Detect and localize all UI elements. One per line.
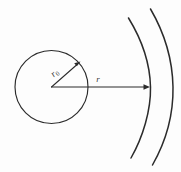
inner-radius-label-group: r0 <box>49 67 61 80</box>
outer-radius-arrow <box>52 84 151 89</box>
svg-text:r0: r0 <box>49 67 61 80</box>
outer-radius-label: r <box>96 74 100 84</box>
outer-arc <box>151 9 174 165</box>
radius-diagram-svg: r0 r <box>0 0 181 172</box>
outer-radius-arrowhead <box>144 84 151 89</box>
diagram-canvas: r0 r <box>0 0 181 172</box>
